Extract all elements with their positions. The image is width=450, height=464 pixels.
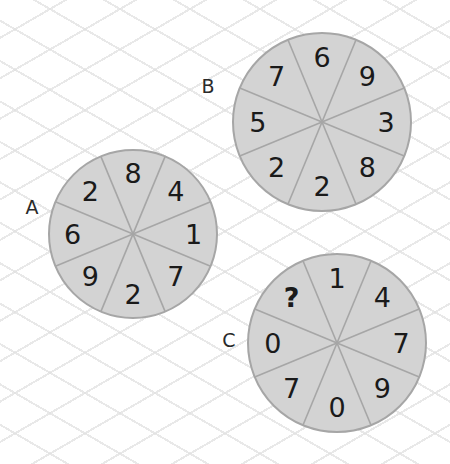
segment-value: 7 (268, 61, 285, 92)
unknown-segment-value: ? (284, 282, 300, 313)
segment-value: 9 (82, 261, 99, 292)
segment-value: 1 (328, 263, 345, 294)
wheel-a: 84172962A (26, 150, 218, 318)
segment-value: 2 (313, 171, 330, 202)
segment-value: 9 (374, 373, 391, 404)
segment-value: 9 (359, 61, 376, 92)
segment-value: 2 (268, 152, 285, 183)
segment-value: 0 (264, 328, 281, 359)
segment-value: 6 (313, 42, 330, 73)
segment-value: 3 (377, 107, 394, 138)
segment-value: 4 (167, 176, 184, 207)
segment-value: 4 (374, 282, 391, 313)
puzzle-canvas: 84172962A 69382257B 1479070?C (0, 0, 450, 464)
segment-value: 8 (359, 152, 376, 183)
segment-value: 7 (392, 328, 409, 359)
segment-value: 5 (249, 107, 266, 138)
wheel-b: 69382257B (201, 33, 411, 211)
segment-value: 1 (185, 219, 202, 250)
segment-value: 2 (82, 176, 99, 207)
segment-value: 8 (124, 158, 141, 189)
wheel-c: 1479070?C (222, 254, 426, 432)
segment-value: 7 (167, 261, 184, 292)
wheel-label: A (26, 196, 39, 218)
segment-value: 7 (283, 373, 300, 404)
segment-value: 2 (124, 279, 141, 310)
segment-value: 0 (328, 392, 345, 423)
wheel-label: B (201, 75, 214, 97)
wheel-label: C (222, 329, 235, 351)
segment-value: 6 (64, 219, 81, 250)
